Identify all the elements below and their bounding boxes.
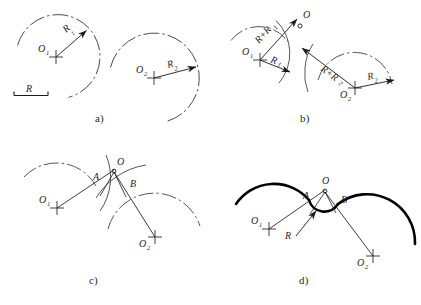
panel-b-sum-radius-2-subscript: 2 <box>337 79 344 87</box>
panel-b-sum-radius-1-label: R+R <box>252 24 274 46</box>
panel-b-drawing: O 1 R 1 R+R 1 O 2 R 2 <box>231 9 394 102</box>
panel-b-auxiliary-arc-2-lower <box>305 68 308 92</box>
panel-a-center-2-label: O <box>136 64 143 75</box>
panel-a-drawing: O 1 R 1 O 2 R 2 R <box>14 15 199 122</box>
panel-a-radius-1-subscript: 1 <box>69 29 76 36</box>
panel-c-center-1-label: O <box>39 194 46 205</box>
panel-b-sum-radius-2-label: R+R <box>318 62 341 83</box>
panel-b-intersection-point <box>298 24 302 28</box>
panel-a-radius-2-subscript: 2 <box>173 64 179 72</box>
panel-c-caption: c) <box>89 274 98 286</box>
panel-d-fillet-arc <box>309 200 338 212</box>
panel-c-center-2-subscript: 2 <box>147 244 151 251</box>
figure-root: O 1 R 1 O 2 R 2 R <box>0 0 421 305</box>
panel-d-caption: d) <box>299 274 309 286</box>
panel-b-intersection-label: O <box>303 9 310 20</box>
panel-d-center-2-label: O <box>357 257 364 268</box>
panel-d-thick-arc-1 <box>236 184 309 204</box>
panel-c-auxiliary-arc-2 <box>96 165 146 198</box>
panel-d-tangent-b-label: B <box>341 194 347 205</box>
panel-b-center-2-label: O <box>340 89 347 100</box>
panel-b-caption: b) <box>300 112 310 124</box>
panel-a-caption: a) <box>95 112 104 124</box>
panel-c-chord-O-A <box>100 172 114 196</box>
panel-b-center-2-subscript: 2 <box>348 95 352 102</box>
panel-c-tangent-a-label: A <box>92 171 100 182</box>
panel-d-fillet-radius-leader <box>296 211 316 236</box>
panel-a-center-1-label: O <box>38 43 45 54</box>
panel-d-center-2-subscript: 2 <box>365 263 369 270</box>
panel-d-drawing: O 1 A O 2 B R O <box>236 175 415 270</box>
panel-d-thick-arc-2 <box>338 194 415 244</box>
panel-c-chord-O-B <box>114 172 126 197</box>
panel-b-radius-1-subscript: 1 <box>277 60 283 68</box>
panel-d-center-1-subscript: 1 <box>259 221 262 228</box>
panel-a-center-2-subscript: 2 <box>144 70 148 77</box>
panel-c-tangent-b-label: B <box>130 178 136 189</box>
panel-c-center-1-subscript: 1 <box>47 200 50 207</box>
panel-c-drawing: O 1 A O 2 B <box>24 155 200 251</box>
panel-d-line-O-to-center2 <box>325 192 373 256</box>
panel-d-tangent-a-label: A <box>302 190 310 201</box>
panel-c-center-2-label: O <box>139 238 146 249</box>
panel-a-given-radius-label: R <box>25 83 32 94</box>
panel-a-radius-2-label: R <box>165 58 175 70</box>
technical-drawing-canvas: O 1 R 1 O 2 R 2 R <box>0 0 421 305</box>
panel-c-intersection-label: O <box>117 156 124 167</box>
panel-a-center-1-subscript: 1 <box>46 49 49 56</box>
panel-b-sum-radius-1-subscript: 1 <box>272 24 279 31</box>
panel-b-radius-2-label: R <box>365 70 374 82</box>
panel-c-arc-2 <box>108 193 200 229</box>
panel-d-intersection-label: O <box>322 175 329 186</box>
panel-d-center-1-label: O <box>251 215 258 226</box>
panel-d-fillet-radius-label: R <box>284 230 291 241</box>
panel-b-center-1-label: O <box>242 46 249 57</box>
panel-b-center-1-subscript: 1 <box>250 52 253 59</box>
panel-c-arc-1 <box>24 163 96 186</box>
panel-b-auxiliary-arc-2 <box>305 44 313 68</box>
